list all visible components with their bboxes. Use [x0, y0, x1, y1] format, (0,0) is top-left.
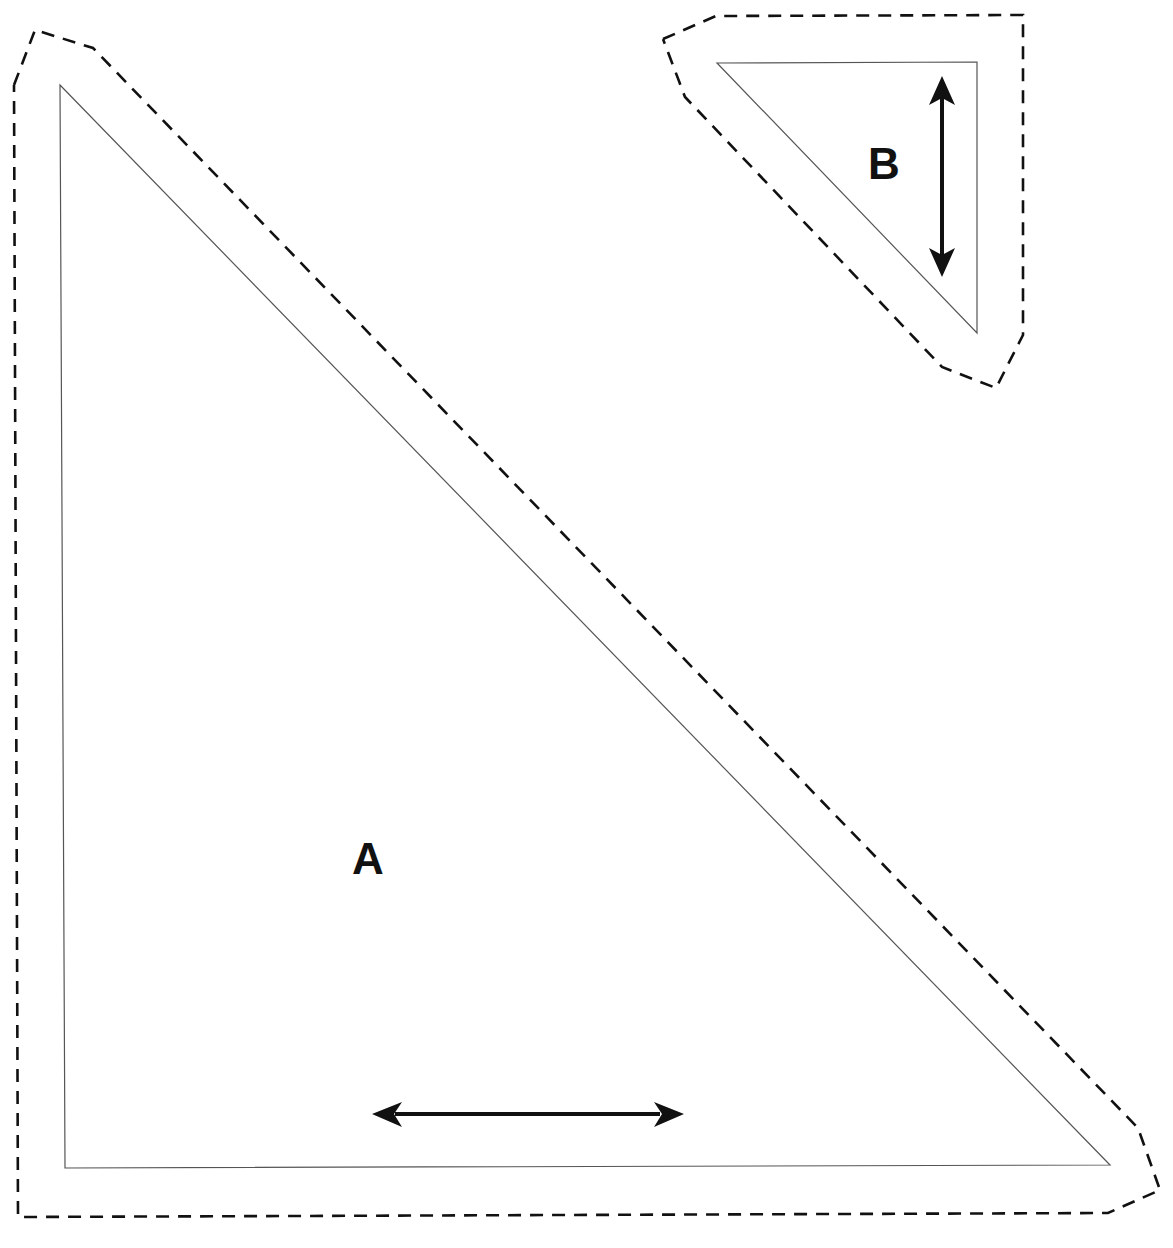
- piece-b-label: B: [868, 139, 900, 188]
- piece-b-seam-allowance: [663, 15, 1023, 388]
- piece-a-cut-line: [60, 85, 1110, 1168]
- piece-b: B: [663, 15, 1023, 388]
- piece-b-cut-line: [717, 62, 977, 333]
- piece-b-grainline-arrow: [929, 76, 955, 277]
- pattern-diagram: A B: [0, 0, 1173, 1248]
- piece-a-label: A: [352, 834, 384, 883]
- piece-a-grainline-arrow: [372, 1102, 684, 1127]
- piece-a: A: [14, 30, 1160, 1217]
